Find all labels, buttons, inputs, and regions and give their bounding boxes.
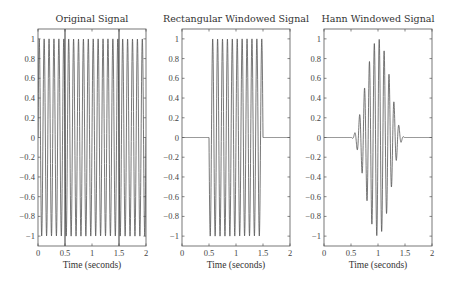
- y-tick-label: −0.8: [306, 211, 321, 221]
- figure: 00.511.5210.80.60.40.20−0.2−0.4−0.6−0.8−…: [0, 0, 454, 283]
- x-axis-label: Time (seconds): [349, 260, 408, 271]
- x-tick-label: 0.5: [204, 248, 215, 258]
- x-tick-label: 1: [376, 248, 380, 258]
- x-axis-label: Time (seconds): [207, 260, 266, 271]
- y-tick-label: −0.6: [20, 192, 35, 202]
- y-tick-label: 0.6: [310, 73, 321, 83]
- x-tick-label: 0: [322, 248, 326, 258]
- x-tick-label: 1: [234, 248, 238, 258]
- x-tick-label: 1.5: [400, 248, 411, 258]
- x-tick-label: 0: [36, 248, 40, 258]
- y-tick-label: 1: [317, 34, 321, 44]
- x-tick-label: 2: [288, 248, 292, 258]
- y-tick-label: −0.4: [306, 172, 322, 182]
- original-signal-plot: 00.511.5210.80.60.40.20−0.2−0.4−0.6−0.8−…: [20, 13, 149, 271]
- y-tick-label: 0.4: [310, 93, 321, 103]
- y-tick-label: −0.8: [20, 211, 35, 221]
- y-tick-label: 0.4: [24, 93, 35, 103]
- y-tick-label: 0.8: [168, 54, 179, 64]
- original-signal-line: [38, 39, 146, 236]
- y-tick-label: 0.6: [168, 73, 179, 83]
- x-tick-label: 1: [90, 248, 94, 258]
- y-tick-label: 0: [317, 133, 321, 143]
- chart-title: Hann Windowed Signal: [321, 13, 434, 24]
- y-tick-label: 0: [31, 133, 35, 143]
- x-tick-label: 2: [144, 248, 148, 258]
- y-tick-label: 0.8: [24, 54, 35, 64]
- y-tick-label: 0: [175, 133, 179, 143]
- chart-title: Original Signal: [56, 13, 129, 24]
- rectangular-windowed-signal-plot: 00.511.5210.80.60.40.20−0.2−0.4−0.6−0.8−…: [163, 13, 309, 271]
- y-tick-label: −1: [312, 231, 321, 241]
- x-tick-label: 0.5: [346, 248, 357, 258]
- y-tick-label: −0.4: [20, 172, 36, 182]
- x-tick-label: 1.5: [258, 248, 269, 258]
- y-tick-label: 0.2: [168, 113, 179, 123]
- y-tick-label: −0.6: [306, 192, 321, 202]
- y-tick-label: 0.4: [168, 93, 179, 103]
- y-tick-label: −0.6: [164, 192, 179, 202]
- y-tick-label: −0.2: [306, 152, 321, 162]
- y-tick-label: −0.2: [164, 152, 179, 162]
- y-tick-label: 1: [31, 34, 35, 44]
- x-tick-label: 1.5: [114, 248, 125, 258]
- y-tick-label: 1: [175, 34, 179, 44]
- y-tick-label: −1: [26, 231, 35, 241]
- x-tick-label: 2: [430, 248, 434, 258]
- x-tick-label: 0: [180, 248, 184, 258]
- y-tick-label: 0.2: [310, 113, 321, 123]
- x-axis-label: Time (seconds): [63, 260, 122, 271]
- hann-signal-line: [324, 39, 432, 235]
- x-tick-label: 0.5: [60, 248, 71, 258]
- y-tick-label: −0.8: [164, 211, 179, 221]
- rectangular-signal-line: [182, 39, 290, 236]
- chart-title: Rectangular Windowed Signal: [163, 13, 309, 24]
- y-tick-label: −0.4: [164, 172, 180, 182]
- y-tick-label: −0.2: [20, 152, 35, 162]
- y-tick-label: 0.2: [24, 113, 35, 123]
- y-tick-label: −1: [170, 231, 179, 241]
- y-tick-label: 0.8: [310, 54, 321, 64]
- hann-windowed-signal-plot: 00.511.5210.80.60.40.20−0.2−0.4−0.6−0.8−…: [306, 13, 435, 271]
- y-tick-label: 0.6: [24, 73, 35, 83]
